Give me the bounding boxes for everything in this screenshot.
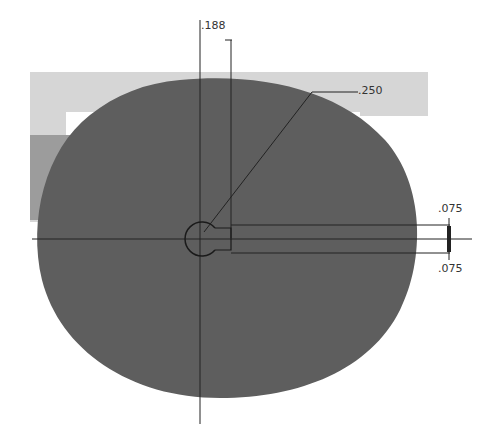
slot-dim-arrows bbox=[447, 226, 451, 252]
dim-label-075-upper: .075 bbox=[438, 203, 463, 215]
drawing-canvas: .188 .250 .075 .075 bbox=[0, 0, 495, 444]
dim-label-075-lower: .075 bbox=[438, 263, 463, 275]
cam-body bbox=[37, 78, 417, 398]
dim-label-250: .250 bbox=[358, 85, 383, 97]
cam-drawing bbox=[0, 0, 495, 444]
dim-label-188: .188 bbox=[201, 20, 226, 32]
